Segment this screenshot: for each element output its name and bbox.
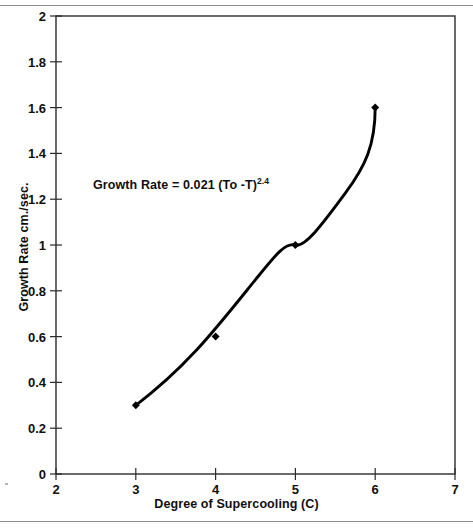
growth-rate-chart: 0 0.2 0.4 0.6 0.8 1 1.2 1.4 1.6 1.8 2 2 … [0, 8, 473, 521]
x-tick-label: 7 [451, 482, 458, 497]
y-tick-label: 0.4 [8, 375, 46, 390]
y-tick-label: 1.8 [8, 54, 46, 69]
y-axis-title: Growth Rate cm./sec. [17, 147, 31, 347]
equation-exponent: 2.4 [257, 176, 269, 186]
x-tick-label: 2 [52, 482, 59, 497]
y-tick-label: 0 [8, 467, 46, 482]
equation-base-text: Growth Rate = 0.021 (To -T) [93, 178, 257, 192]
plot-canvas [0, 8, 473, 521]
x-tick-label: 4 [212, 482, 219, 497]
page-rule-bottom [0, 521, 473, 522]
x-axis-title: Degree of Supercooling (C) [0, 497, 473, 511]
page-rule-top [0, 5, 473, 6]
y-tick-label: 2 [8, 9, 46, 24]
x-tick-label: 5 [292, 482, 299, 497]
x-tick-label: 3 [132, 482, 139, 497]
scanned-page: 0 0.2 0.4 0.6 0.8 1 1.2 1.4 1.6 1.8 2 2 … [0, 0, 473, 529]
y-tick-label: 1.6 [8, 100, 46, 115]
x-tick-label: 6 [372, 482, 379, 497]
y-tick-label: 0.2 [8, 421, 46, 436]
plot-frame [56, 16, 455, 474]
equation-annotation: Growth Rate = 0.021 (To -T)2.4 [93, 178, 269, 192]
